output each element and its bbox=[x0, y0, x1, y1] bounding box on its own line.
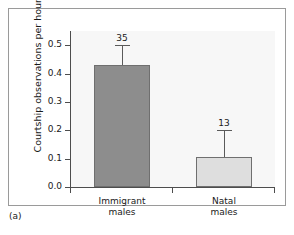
error-bar-stem bbox=[122, 45, 123, 65]
bar-count-label: 13 bbox=[204, 118, 244, 128]
x-tick bbox=[274, 188, 275, 193]
x-tick bbox=[70, 188, 71, 193]
figure: 0.00.10.20.30.40.5 ImmigrantmalesNatalma… bbox=[0, 0, 294, 235]
figure-caption: (a) bbox=[9, 211, 22, 221]
y-tick: 0.5 bbox=[65, 45, 70, 46]
y-tick-label: 0.1 bbox=[48, 153, 62, 164]
y-tick-label: 0.3 bbox=[48, 96, 62, 107]
bar bbox=[94, 65, 150, 187]
bar-count-label: 35 bbox=[102, 33, 142, 43]
y-tick-label: 0.2 bbox=[48, 124, 62, 135]
bar bbox=[196, 157, 252, 187]
x-tick-label-line: Immigrant bbox=[79, 196, 165, 207]
y-axis-line bbox=[70, 31, 71, 188]
x-tick-label: Natalmales bbox=[181, 196, 267, 218]
error-bar-cap bbox=[217, 130, 232, 131]
x-tick-label: Immigrantmales bbox=[79, 196, 165, 218]
y-axis-title: Courtship observations per hour bbox=[32, 1, 43, 153]
y-tick: 0.2 bbox=[65, 130, 70, 131]
x-tick-label-line: Natal bbox=[181, 196, 267, 207]
y-tick-label: 0.4 bbox=[48, 68, 62, 79]
y-tick-label: 0.0 bbox=[48, 181, 62, 192]
x-tick-label-line: males bbox=[181, 207, 267, 218]
x-tick bbox=[172, 188, 173, 193]
y-tick: 0.3 bbox=[65, 102, 70, 103]
error-bar-cap bbox=[115, 45, 130, 46]
error-bar-stem bbox=[224, 130, 225, 156]
x-tick-label-line: males bbox=[79, 207, 165, 218]
y-tick: 0.1 bbox=[65, 159, 70, 160]
y-tick-label: 0.5 bbox=[48, 39, 62, 50]
y-tick: 0.4 bbox=[65, 74, 70, 75]
figure-panel: 0.00.10.20.30.40.5 ImmigrantmalesNatalma… bbox=[8, 8, 286, 206]
